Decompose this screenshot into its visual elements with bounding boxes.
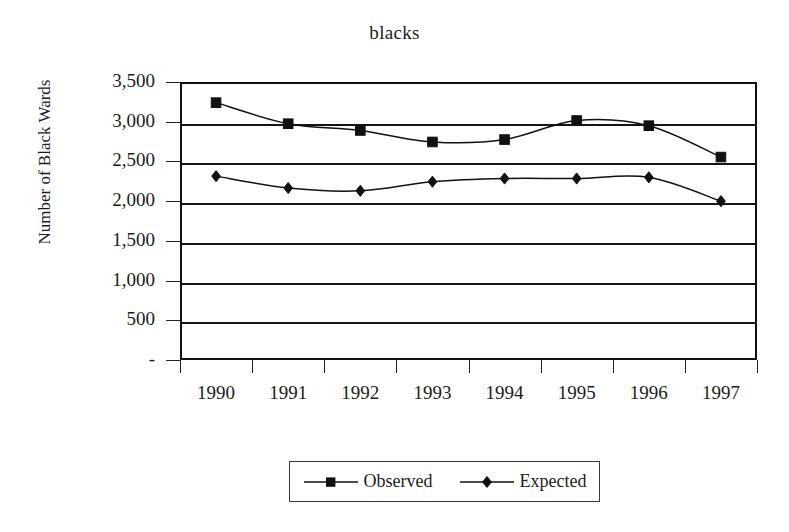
x-axis-tick-mark — [541, 360, 542, 373]
x-axis-tick-mark — [613, 360, 614, 373]
data-point-marker — [356, 185, 365, 196]
y-axis-tick-label: 1,000 — [5, 270, 155, 289]
data-point-marker — [500, 173, 509, 184]
y-axis-tick-label: 500 — [5, 309, 155, 328]
x-axis-tick-mark — [180, 360, 181, 373]
data-point-marker — [284, 182, 293, 193]
data-point-marker — [572, 173, 581, 184]
data-point-marker — [717, 196, 726, 207]
series-observed — [211, 98, 725, 162]
y-axis-tick-label: 3,500 — [5, 71, 155, 90]
y-axis-tick-mark — [166, 241, 180, 242]
legend-label: Expected — [520, 471, 587, 492]
x-axis-tick-mark — [396, 360, 397, 373]
data-point-marker — [716, 152, 726, 162]
y-axis-tick-mark — [166, 201, 180, 202]
y-axis-tick-mark — [166, 360, 180, 361]
data-point-marker — [211, 98, 221, 108]
data-point-marker — [572, 116, 582, 126]
x-axis-tick-mark — [757, 360, 758, 373]
chart-legend: ObservedExpected — [289, 461, 600, 502]
legend-label: Observed — [364, 471, 433, 492]
data-point-marker — [644, 121, 654, 131]
y-axis-tick-label: 3,000 — [5, 111, 155, 130]
series-layer — [180, 82, 757, 360]
legend-entry-expected[interactable]: Expected — [459, 471, 587, 492]
data-point-marker — [644, 172, 653, 183]
y-axis-tick-label: - — [5, 349, 155, 368]
y-axis-tick-mark — [166, 320, 180, 321]
series-expected — [212, 171, 726, 207]
y-axis-tick-label: 2,500 — [5, 150, 155, 169]
data-point-marker — [500, 135, 510, 145]
y-axis-tick-label: 1,500 — [5, 230, 155, 249]
y-axis-tick-mark — [166, 161, 180, 162]
data-point-marker — [283, 119, 293, 129]
data-point-marker — [212, 171, 221, 182]
y-axis-tick-mark — [166, 281, 180, 282]
data-point-marker — [428, 176, 437, 187]
x-axis-tick-label: 1997 — [676, 382, 766, 404]
y-axis-tick-label: 2,000 — [5, 190, 155, 209]
legend-diamond-marker-icon — [459, 474, 515, 490]
y-axis-tick-mark — [166, 122, 180, 123]
x-axis-tick-mark — [252, 360, 253, 373]
data-point-marker — [356, 126, 366, 136]
chart-figure: blacks Number of Black Wards 3,5003,0002… — [0, 0, 789, 532]
legend-entry-observed[interactable]: Observed — [303, 471, 433, 492]
legend-square-marker-icon — [303, 474, 359, 490]
data-point-marker — [428, 137, 438, 147]
x-axis: 19901991199219931994199519961997 — [180, 360, 757, 420]
y-axis-tick-mark — [166, 82, 180, 83]
y-axis-tick-group: 3,5003,0002,5002,0001,5001,000500- — [0, 0, 180, 532]
x-axis-tick-mark — [324, 360, 325, 373]
x-axis-tick-mark — [469, 360, 470, 373]
x-axis-tick-mark — [685, 360, 686, 373]
